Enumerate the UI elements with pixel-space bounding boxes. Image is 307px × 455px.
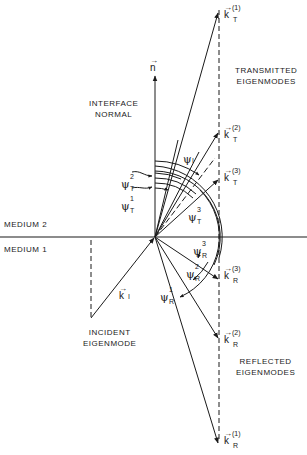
vector-sub: T (233, 16, 237, 23)
psi-sup: 3 (197, 206, 201, 213)
psi-sup: 1 (169, 286, 173, 293)
psi-glyph: ψ (121, 200, 130, 213)
psiR3-label: ψ 3 R (193, 245, 202, 258)
vector-sup: (2) (232, 329, 241, 336)
vector-arrow-icon: → (224, 123, 232, 132)
transmitted-line2: EIGENMODES (235, 76, 297, 87)
vector-sub: I (128, 293, 130, 300)
psi-sub: R (195, 275, 200, 282)
kT2-label: → k (2) T (224, 129, 229, 140)
vector-sub: R (233, 277, 238, 284)
medium1-label: MEDIUM 1 (4, 244, 47, 255)
vector-arrow-icon: → (224, 429, 232, 438)
vector-sup: (3) (232, 167, 241, 174)
vector-arrow-icon: → (150, 56, 158, 65)
transmitted-line1: TRANSMITTED (235, 65, 297, 76)
kT1-label: → k (1) T (224, 9, 229, 20)
vector-sup: (3) (232, 265, 241, 272)
incident-vector (91, 238, 154, 318)
transmitted-label: TRANSMITTED EIGENMODES (235, 65, 297, 87)
psi-glyph: ψ (193, 245, 202, 258)
vector-sub: T (233, 136, 237, 143)
vector-sub: R (233, 442, 238, 449)
psi-sup: 3 (202, 240, 206, 247)
psi-sup: 2 (130, 173, 134, 180)
psi-sub: T (130, 185, 134, 192)
vector-arrow-icon: → (224, 3, 232, 12)
kT3-label: → k (3) T (224, 172, 229, 183)
reflected-line2: EIGENMODES (236, 367, 295, 378)
vector-sub: T (233, 179, 237, 186)
psiT3-label: ψ 3 T (188, 211, 197, 224)
vector-sup: (2) (232, 124, 241, 131)
psi-glyph: ψ (186, 268, 195, 281)
psi-sub: T (197, 218, 201, 225)
psi-sub: I (192, 157, 194, 164)
interface-normal-line2: NORMAL (89, 109, 138, 120)
kR2-label: → k (2) R (224, 334, 229, 345)
psi-sub: T (130, 207, 134, 214)
kR1-label: → k (1) R (224, 435, 229, 446)
psiR2-label: ψ 2 R (186, 268, 195, 281)
vector-arrow-icon: → (224, 166, 232, 175)
psi-glyph: ψ (188, 211, 197, 224)
psi-glyph: ψ (121, 178, 130, 191)
kT3-vector (155, 180, 218, 237)
n-vector-label: → n (150, 62, 156, 73)
incident-label: INCIDENT EIGENMODE (83, 327, 136, 349)
interface-normal-line1: INTERFACE (89, 98, 138, 109)
psi-glyph: ψ (160, 291, 169, 304)
vector-arrow-icon: → (119, 284, 127, 293)
kT2-vector (155, 133, 218, 237)
medium2-label: MEDIUM 2 (4, 219, 47, 230)
psiT2-label: ψ 2 T (121, 178, 130, 191)
kR3-label: → k (3) R (224, 270, 229, 281)
vector-sup: (1) (232, 430, 241, 437)
psiT2-ray (155, 152, 199, 237)
vector-arrow-icon: → (224, 264, 232, 273)
vector-arrow-icon: → (224, 328, 232, 337)
psi-sup: 1 (130, 195, 134, 202)
psi-sub: R (202, 252, 207, 259)
interface-normal-label: INTERFACE NORMAL (89, 98, 138, 120)
vector-sub: R (233, 341, 238, 348)
reflected-line1: REFLECTED (236, 356, 295, 367)
incident-line1: INCIDENT (83, 327, 136, 338)
psi-sub: R (169, 298, 174, 305)
psiT1-label: ψ 1 T (121, 200, 130, 213)
vector-sup: (1) (232, 4, 241, 11)
reflected-label: REFLECTED EIGENMODES (236, 356, 295, 378)
kR2-vector (155, 237, 218, 338)
psi-sup: 2 (195, 263, 199, 270)
psiR1-label: ψ 1 R (160, 291, 169, 304)
kT1-vector (155, 13, 218, 237)
psi-glyph: ψ (183, 153, 192, 166)
incident-line2: EIGENMODE (83, 338, 136, 349)
kI-label: → k I (119, 290, 124, 301)
psiI-label: ψ I (183, 153, 192, 166)
